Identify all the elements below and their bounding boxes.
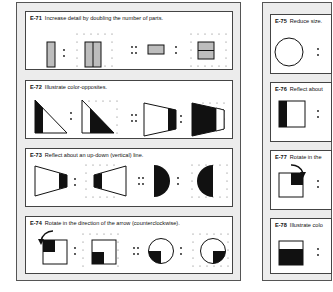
analogy-figures xyxy=(26,217,234,275)
exercise-e78: E-78Illustrate colo xyxy=(270,218,332,274)
exercise-e72: E-72Illustrate color-opposites. xyxy=(25,80,233,139)
analogy-figures xyxy=(26,12,234,71)
exercise-e71: E-71Increase detail by doubling the numb… xyxy=(25,11,233,70)
analogy-figures xyxy=(26,149,234,208)
analogy-figures xyxy=(271,151,333,211)
exercise-e74: E-74Rotate in the direction of the arrow… xyxy=(25,216,233,274)
analogy-figures xyxy=(271,219,333,275)
analogy-figures xyxy=(271,83,333,143)
clockwise-arrow-icon xyxy=(291,165,303,173)
exercise-e77: E-77Rotate in the xyxy=(270,150,332,210)
exercise-e73: E-73Reflect about an up-down (vertical) … xyxy=(25,148,233,207)
analogy-figures xyxy=(271,15,333,75)
exercise-e75: E-75Reduce size. xyxy=(270,14,332,74)
analogy-figures xyxy=(26,81,234,140)
exercise-e76: E-76Reflect about xyxy=(270,82,332,142)
